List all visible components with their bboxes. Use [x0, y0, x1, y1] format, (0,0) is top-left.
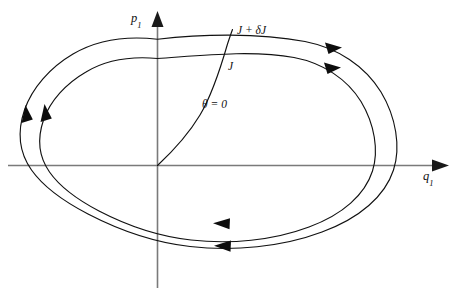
inner-orbit-arrow-bottom: [213, 218, 230, 229]
theta-zero-label: θ = 0: [202, 99, 227, 111]
outer-orbit-arrow-upper-right: [325, 43, 342, 55]
inner-orbit-label: J: [228, 61, 233, 73]
figure-canvas: [0, 0, 457, 298]
inner-orbit-path: [40, 54, 376, 242]
outer-orbit-label: J + δJ: [237, 25, 266, 37]
phase-space-figure: p1 q1 J + δJ J θ = 0: [0, 0, 457, 298]
q-axis-arrowhead: [432, 160, 449, 172]
q-axis-label: q1: [423, 170, 434, 185]
p-axis-label-subscript: 1: [137, 20, 141, 30]
p-axis-arrowhead: [152, 11, 164, 27]
p-axis-label: p1: [131, 12, 142, 27]
q-axis-label-subscript: 1: [429, 178, 433, 188]
inner-orbit-group: [40, 54, 376, 242]
outer-orbit-path: [20, 35, 397, 248]
